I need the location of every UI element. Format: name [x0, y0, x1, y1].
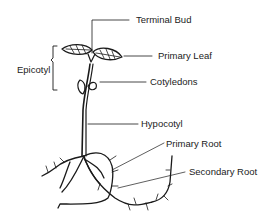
seedling-diagram: Terminal Bud Primary Leaf Epicotyl Cotyl… [0, 0, 265, 224]
seedling-illustration [0, 0, 265, 224]
label-cotyledons: Cotyledons [150, 77, 198, 87]
label-hypocotyl: Hypocotyl [141, 119, 183, 129]
label-primary-leaf: Primary Leaf [158, 51, 212, 61]
label-secondary-root: Secondary Root [189, 167, 257, 177]
right-primary-leaf [93, 48, 122, 60]
cotyledon-left [78, 80, 85, 94]
label-terminal-bud: Terminal Bud [136, 15, 191, 25]
terminal-bud [88, 54, 95, 62]
label-primary-root: Primary Root [166, 139, 221, 149]
label-epicotyl: Epicotyl [17, 65, 50, 75]
epicotyl-bracket [51, 46, 57, 90]
